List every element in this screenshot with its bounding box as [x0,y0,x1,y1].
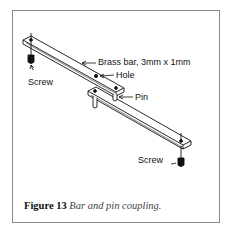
hole-lower-bar-start [94,90,97,93]
figure-number: Figure 13 [24,200,67,211]
hole-center [94,74,97,77]
label-hole: Hole [116,71,135,80]
label-pin: Pin [135,93,148,102]
pin-lower [93,96,97,108]
pin [113,94,117,101]
label-screw-left: Screw [28,78,53,87]
figure-title: Bar and pin coupling. [69,200,161,211]
figure-caption: Figure 13 Bar and pin coupling. [24,200,161,211]
hole-upper-bar-end [115,87,118,90]
label-brass-bar: Brass bar, 3mm x 1mm [98,58,191,67]
label-screw-right: Screw [138,156,163,165]
hole-right-end [180,140,183,143]
